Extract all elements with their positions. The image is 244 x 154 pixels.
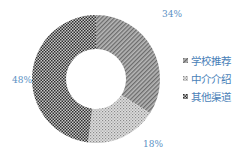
legend-item-agency: 中介介绍 [183,69,231,87]
legend-label: 学校推荐 [191,53,231,68]
label-agency-pct: 18% [143,139,163,149]
legend-label: 其他渠道 [191,89,231,104]
legend-item-other: 其他渠道 [183,87,231,105]
chart-legend: 学校推荐 中介介绍 其他渠道 [183,51,231,105]
legend-label: 中介介绍 [191,71,231,86]
label-other-pct: 48% [12,75,32,85]
slice-school [96,15,160,113]
legend-item-school: 学校推荐 [183,51,231,69]
slice-other [32,15,96,142]
label-school-pct: 34% [162,9,182,19]
dots-swatch-icon [183,76,188,81]
checker-swatch-icon [183,94,188,99]
diagonal-swatch-icon [183,58,188,63]
